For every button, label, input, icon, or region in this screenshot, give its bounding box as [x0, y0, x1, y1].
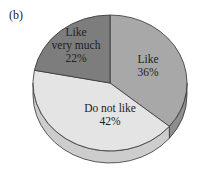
slice-label: Like36%: [137, 53, 159, 78]
pie-chart: Like36%Do not like42%Likevery much22%: [0, 0, 197, 176]
